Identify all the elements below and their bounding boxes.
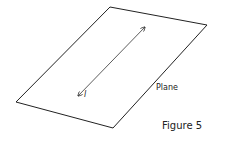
figure-caption: Figure 5 xyxy=(162,120,202,131)
line-l-arrow xyxy=(78,27,145,96)
figure-canvas: l Plane Figure 5 xyxy=(0,0,225,141)
plane-shape xyxy=(16,7,207,128)
line-label: l xyxy=(84,90,86,99)
plane-label: Plane xyxy=(156,83,178,92)
